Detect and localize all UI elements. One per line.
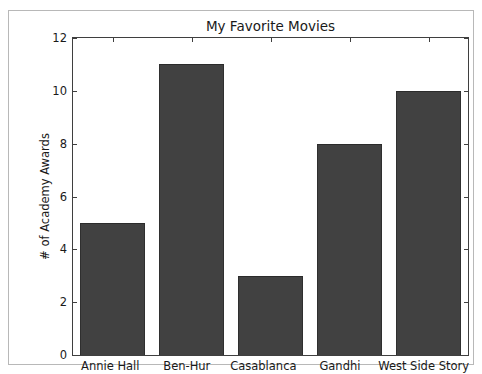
bars-container: [73, 38, 468, 355]
x-tick-label: West Side Story: [378, 358, 469, 374]
x-tick-label: Annie Hall: [72, 358, 149, 374]
y-axis-label: # of Academy Awards: [37, 37, 53, 356]
chart-title: My Favorite Movies: [72, 17, 469, 35]
y-tick-mark-right: [464, 355, 468, 356]
y-tick-label: 12: [52, 32, 67, 44]
bar: [159, 64, 224, 355]
x-tick-label: Ben-Hur: [149, 358, 226, 374]
bar: [396, 91, 461, 355]
y-tick-label: 10: [52, 85, 67, 97]
x-tick-label: Gandhi: [302, 358, 379, 374]
y-tick-label: 2: [60, 296, 67, 308]
x-tick-label: Casablanca: [225, 358, 302, 374]
figure-border: My Favorite Movies # of Academy Awards 0…: [8, 10, 474, 365]
y-tick-label: 0: [60, 349, 67, 361]
bar: [238, 276, 303, 355]
y-tick-label: 4: [60, 243, 67, 255]
y-tick-mark-left: [73, 355, 77, 356]
y-tick-label: 8: [60, 138, 67, 150]
x-axis-tick-labels: Annie HallBen-HurCasablancaGandhiWest Si…: [72, 358, 469, 374]
bar: [317, 144, 382, 355]
bar: [80, 223, 145, 355]
y-tick-label: 6: [60, 191, 67, 203]
plot-area: 024681012: [72, 37, 469, 356]
